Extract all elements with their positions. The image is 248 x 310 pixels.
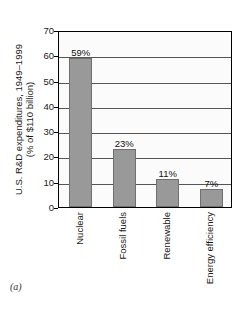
y-axis-tick-label: 10 — [30, 178, 54, 188]
bar-value-label: 59% — [57, 48, 105, 58]
plot-frame: 59%23%11%7% — [58, 31, 232, 208]
x-axis-category-label: Fossil fuels — [119, 212, 129, 260]
x-axis-category-label: Energy efficiency — [206, 212, 216, 284]
y-axis-tick-label: 40 — [30, 102, 54, 112]
x-axis-label-slot: Fossil fuels — [102, 208, 146, 304]
bar — [113, 149, 136, 207]
figure-bar-chart: U.S. R&D expenditures, 1949–1999 (% of $… — [0, 0, 248, 310]
bar-value-label: 11% — [144, 169, 192, 179]
y-axis-tick-label: 70 — [30, 26, 54, 36]
y-axis-tick-label: 30 — [30, 127, 54, 137]
y-axis-tick-label: 60 — [30, 52, 54, 62]
y-axis-tick-labels: 010203040506070 — [30, 31, 54, 208]
figure-caption: (a) — [10, 281, 22, 292]
plot-area: 59%23%11%7% — [59, 32, 231, 207]
bar — [69, 58, 92, 207]
bar-value-label: 7% — [187, 179, 235, 189]
bar — [156, 179, 179, 207]
x-axis-label-slot: Renewable — [145, 208, 189, 304]
x-axis-label-slot: Energy efficiency — [189, 208, 233, 304]
y-axis-tick-label: 50 — [30, 77, 54, 87]
bar-value-label: 23% — [100, 139, 148, 149]
y-axis-tick-label: 0 — [30, 203, 54, 213]
x-axis-category-label: Renewable — [162, 212, 172, 260]
y-axis-tick-label: 20 — [30, 153, 54, 163]
x-axis-category-labels: NuclearFossil fuelsRenewableEnergy effic… — [58, 208, 232, 304]
x-axis-category-label: Nuclear — [75, 212, 85, 245]
bar — [200, 189, 223, 207]
x-axis-label-slot: Nuclear — [58, 208, 102, 304]
